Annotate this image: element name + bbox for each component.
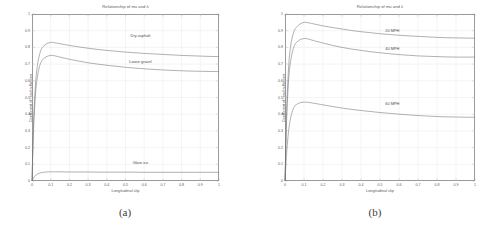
x-tick-label: 0.4	[359, 183, 364, 187]
subcaption-a: (a)	[0, 206, 250, 218]
plot-area-a: Relationship of mu and λ 00.10.20.30.40.…	[32, 14, 219, 181]
x-tick-label: 0.2	[321, 183, 326, 187]
y-tick-label: 0.3	[25, 129, 30, 133]
series-annotation-label: Loose gravel	[129, 58, 151, 63]
y-tick-label: 0	[28, 179, 30, 183]
x-axis-label-a: Longitudinal slip	[32, 188, 219, 193]
x-tick-label: 0.9	[198, 183, 203, 187]
x-tick-label: 0.1	[302, 183, 307, 187]
x-tick-label: 0	[284, 183, 286, 187]
y-tick-label: 0.3	[278, 129, 283, 133]
x-tick-label: 0.8	[435, 183, 440, 187]
x-tick-label: 0.7	[416, 183, 421, 187]
y-tick-label: 1	[281, 12, 283, 16]
y-tick-label: 0.2	[25, 146, 30, 150]
x-tick-label: 0	[31, 183, 33, 187]
grid-lines-a	[32, 14, 219, 181]
y-axis-label-b: Coefficient of road adhesion	[281, 73, 286, 121]
y-tick-label: 0.9	[25, 29, 30, 33]
x-tick-label: 0.9	[454, 183, 459, 187]
chart-title-a: Relationship of mu and λ	[32, 4, 219, 9]
y-tick-label: 0	[281, 179, 283, 183]
figure-panel-b: Relationship of mu and λ 00.10.20.30.40.…	[250, 0, 500, 234]
x-tick-label: 0.7	[160, 183, 165, 187]
series-annotation-label: Glare ice	[133, 159, 149, 164]
y-tick-label: 1	[28, 12, 30, 16]
y-tick-label: 0.2	[278, 146, 283, 150]
x-tick-label: 0.5	[123, 183, 128, 187]
series-annotation-label: 40 MPH	[385, 46, 399, 51]
figure-row: Relationship of mu and λ 00.10.20.30.40.…	[0, 0, 500, 234]
y-tick-label: 0.9	[278, 29, 283, 33]
x-tick-label: 1	[474, 183, 476, 187]
series-annotation-label: 60 MPH	[385, 101, 399, 106]
x-tick-label: 0.4	[104, 183, 109, 187]
chart-canvas-b	[285, 14, 475, 181]
x-tick-label: 1	[218, 183, 220, 187]
y-tick-label: 0.7	[278, 62, 283, 66]
x-tick-label: 0.3	[86, 183, 91, 187]
x-tick-label: 0.5	[378, 183, 383, 187]
figure-panel-a: Relationship of mu and λ 00.10.20.30.40.…	[0, 0, 250, 234]
x-tick-label: 0.6	[142, 183, 147, 187]
x-tick-label: 0.6	[397, 183, 402, 187]
series-annotation-label: 20 MPH	[385, 27, 399, 32]
plot-area-b: Relationship of mu and λ 00.10.20.30.40.…	[285, 14, 475, 181]
x-tick-label: 0.1	[48, 183, 53, 187]
x-tick-label: 0.2	[67, 183, 72, 187]
chart-canvas-a	[32, 14, 219, 181]
subcaption-b: (b)	[250, 206, 500, 218]
y-tick-label: 0.7	[25, 62, 30, 66]
y-tick-label: 0.1	[278, 162, 283, 166]
x-tick-label: 0.3	[340, 183, 345, 187]
chart-title-b: Relationship of mu and λ	[285, 4, 475, 9]
x-axis-label-b: Longitudinal slip	[285, 188, 475, 193]
grid-lines-b	[285, 14, 475, 181]
y-axis-label-a: Coefficient of road adhesion	[28, 73, 33, 121]
y-tick-label: 0.1	[25, 162, 30, 166]
y-tick-label: 0.8	[278, 45, 283, 49]
y-tick-label: 0.8	[25, 45, 30, 49]
series-annotation-label: Dry asphalt	[131, 32, 151, 37]
x-tick-label: 0.8	[179, 183, 184, 187]
